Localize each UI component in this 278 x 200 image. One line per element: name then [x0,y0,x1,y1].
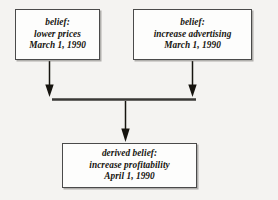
node-date: March 1, 1990 [29,40,86,51]
node-content: increase profitability [89,160,169,171]
node-content: lower prices [34,29,81,40]
arrow-right-premise-to-join [188,61,196,97]
node-label: belief: [180,17,205,28]
node-label: belief: [45,17,70,28]
node-belief-increase-advertising: belief: increase advertising March 1, 19… [133,9,252,60]
node-date: March 1, 1990 [164,40,221,51]
arrow-join-to-conclusion [121,101,129,142]
node-content: increase advertising [154,29,232,40]
arrow-left-premise-to-join [45,61,53,97]
node-label: derived belief: [102,148,157,159]
node-belief-lower-prices: belief: lower prices March 1, 1990 [15,9,100,60]
node-date: April 1, 1990 [104,171,155,182]
node-derived-belief: derived belief: increase profitability A… [62,143,197,188]
belief-derivation-diagram: belief: lower prices March 1, 1990 belie… [0,0,278,200]
